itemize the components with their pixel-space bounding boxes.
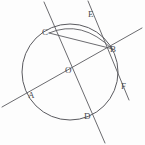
point-label-d: D [84,112,91,121]
line-c-d [44,2,105,143]
geometry-figure: C B E F A D O [0,0,145,145]
point-label-e: E [88,10,94,19]
point-label-f: F [121,82,126,91]
point-label-o: O [65,66,72,75]
geometry-canvas [0,0,145,145]
point-label-b: B [110,45,116,54]
point-label-c: C [42,28,48,37]
point-label-a: A [28,91,35,100]
